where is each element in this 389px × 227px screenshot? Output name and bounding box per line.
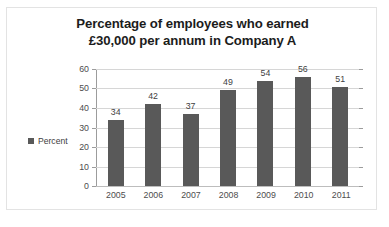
bar-slot: 56	[284, 69, 321, 186]
axis-tick-mark	[92, 167, 96, 168]
bar-value-label: 42	[148, 91, 158, 101]
bar-value-label: 34	[111, 107, 121, 117]
bar[interactable]: 56	[295, 77, 311, 186]
y-axis-tick-label: 0	[84, 181, 89, 191]
x-axis-tick-label: 2010	[285, 190, 323, 200]
bar-slot: 54	[247, 69, 284, 186]
bar-value-label: 56	[298, 64, 308, 74]
bar[interactable]: 51	[332, 87, 348, 186]
axis-tick-mark	[92, 128, 96, 129]
x-axis-tick-label: 2005	[97, 190, 135, 200]
x-axis-tick-label: 2008	[210, 190, 248, 200]
plot-area: 6050403020100 34423749545651	[96, 69, 359, 186]
gridline	[96, 186, 359, 187]
bar[interactable]: 42	[145, 104, 161, 186]
bar[interactable]: 37	[183, 114, 199, 186]
axis-tick-mark	[92, 69, 96, 70]
y-axis-tick-label: 50	[79, 83, 89, 93]
chart-legend: Percent	[28, 136, 68, 146]
axis-tick-mark	[359, 128, 363, 129]
bar-value-label: 51	[335, 74, 345, 84]
bar[interactable]: 34	[108, 120, 124, 186]
legend-swatch-percent	[28, 138, 34, 144]
category-axis: 2005200620072008200920102011	[97, 190, 360, 200]
bars-group: 34423749545651	[97, 69, 359, 186]
y-axis-tick-label: 40	[79, 103, 89, 113]
chart-title-line-2: £30,000 per annum in Company A	[7, 33, 378, 50]
bar-slot: 42	[134, 69, 171, 186]
chart-title-line-1: Percentage of employees who earned	[7, 16, 378, 33]
bar[interactable]: 49	[220, 90, 236, 186]
chart-title: Percentage of employees who earned £30,0…	[7, 16, 378, 49]
axis-tick-mark	[92, 147, 96, 148]
y-axis-tick-label: 10	[79, 162, 89, 172]
axis-tick-mark	[92, 88, 96, 89]
axis-tick-mark	[359, 147, 363, 148]
x-axis-tick-label: 2011	[322, 190, 360, 200]
axis-tick-mark	[92, 186, 96, 187]
axis-tick-mark	[359, 69, 363, 70]
bar-value-label: 49	[223, 77, 233, 87]
bar-value-label: 37	[186, 101, 196, 111]
chart-container: Percentage of employees who earned £30,0…	[6, 7, 377, 210]
axis-tick-mark	[92, 108, 96, 109]
bar-slot: 49	[209, 69, 246, 186]
x-axis-tick-label: 2007	[172, 190, 210, 200]
bar-slot: 37	[172, 69, 209, 186]
y-axis-tick-label: 60	[79, 64, 89, 74]
x-axis-tick-label: 2006	[135, 190, 173, 200]
axis-tick-mark	[359, 186, 363, 187]
y-axis-tick-label: 20	[79, 142, 89, 152]
axis-tick-mark	[359, 108, 363, 109]
axis-tick-mark	[359, 88, 363, 89]
axis-tick-mark	[359, 167, 363, 168]
bar-value-label: 54	[260, 68, 270, 78]
bar-slot: 51	[322, 69, 359, 186]
legend-label-percent: Percent	[38, 136, 68, 146]
x-axis-tick-label: 2009	[247, 190, 285, 200]
y-axis-tick-label: 30	[79, 123, 89, 133]
bar-slot: 34	[97, 69, 134, 186]
bar[interactable]: 54	[257, 81, 273, 186]
